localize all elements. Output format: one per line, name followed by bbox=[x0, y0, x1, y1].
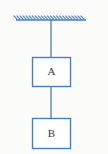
block-a-label: A bbox=[48, 65, 56, 77]
diagram-canvas: AB bbox=[0, 0, 108, 154]
ceiling-support bbox=[14, 16, 86, 20]
physics-diagram-figure: AB bbox=[0, 0, 108, 154]
block-b-label: B bbox=[48, 127, 55, 139]
